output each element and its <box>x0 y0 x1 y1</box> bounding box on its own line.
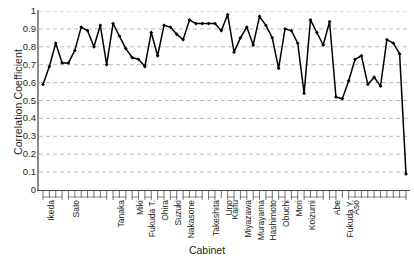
x-tick-label: Ohira <box>161 200 170 221</box>
x-tick-label: Obuchi <box>282 200 291 227</box>
x-tick-label: Nakasone <box>187 200 196 238</box>
data-point <box>328 20 332 24</box>
y-tick-label: 0.2 <box>14 149 36 159</box>
y-tick-label: 0.3 <box>14 131 36 141</box>
y-tick-label: 0.6 <box>14 78 36 88</box>
data-point <box>47 65 51 69</box>
data-point <box>340 97 344 101</box>
data-point <box>200 22 204 26</box>
y-tick-label: 0 <box>14 185 36 195</box>
y-tick-label: 0.9 <box>14 24 36 34</box>
y-tick-label: 1 <box>14 6 36 16</box>
y-tick-label: 0.5 <box>14 96 36 106</box>
data-point <box>149 31 153 35</box>
x-tick-label: Sato <box>72 200 81 218</box>
data-point <box>302 91 306 95</box>
x-axis-title: Cabinet <box>0 244 414 256</box>
data-point <box>283 27 287 31</box>
y-tick-label: 0.1 <box>14 167 36 177</box>
data-point <box>54 41 58 45</box>
data-point <box>334 95 338 99</box>
y-tick-label: 0.7 <box>14 60 36 70</box>
x-tick-label: Ikeda <box>47 200 56 221</box>
data-point <box>92 45 96 49</box>
x-tick-label: Kaifu <box>231 200 240 219</box>
data-point <box>162 23 166 27</box>
x-tick-label: Mori <box>295 200 304 217</box>
x-tick-label: Takeshita <box>212 200 221 236</box>
series-line <box>43 15 406 174</box>
x-axis-tick-labels: IkedaSatoTanakaMikiFukuda T.OhiraSuzukiN… <box>0 200 414 240</box>
x-tick-label: Miki <box>136 200 145 215</box>
plot-area <box>39 11 410 190</box>
x-tick-label: Tanaka <box>117 200 126 227</box>
x-tick-label: Aso <box>352 200 361 215</box>
data-point <box>277 66 281 70</box>
x-tick-label: Fukuda T. <box>148 200 157 237</box>
data-point <box>251 43 255 47</box>
series-svg <box>39 11 410 190</box>
correlation-coefficient-line-chart: Correlation Coefficient 10.90.80.70.60.5… <box>0 0 414 264</box>
data-point <box>156 54 160 58</box>
x-tick-label: Hashimoto <box>269 200 278 241</box>
x-tick-label: Suzuki <box>174 200 183 226</box>
x-tick-label: Koizumi <box>308 200 317 230</box>
x-tick-label: Murayama <box>257 200 266 240</box>
data-point <box>105 63 109 67</box>
y-tick-label: 0.8 <box>14 42 36 52</box>
y-tick-label: 0.4 <box>14 113 36 123</box>
x-tick-label: Miyazawa <box>244 200 253 238</box>
data-point <box>404 172 408 176</box>
data-point <box>207 22 211 26</box>
data-point <box>347 79 351 83</box>
y-axis-tick-labels: 10.90.80.70.60.50.40.30.20.10 <box>12 0 36 200</box>
data-point <box>60 61 64 65</box>
data-point <box>98 23 102 27</box>
data-point <box>41 82 45 86</box>
x-tick-label: Abe <box>333 200 342 215</box>
